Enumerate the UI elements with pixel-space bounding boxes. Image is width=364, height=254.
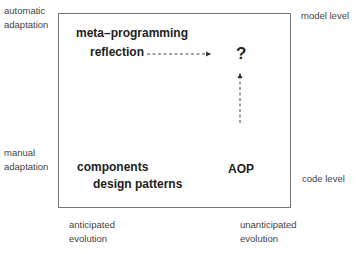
arrows-layer [0, 0, 364, 254]
